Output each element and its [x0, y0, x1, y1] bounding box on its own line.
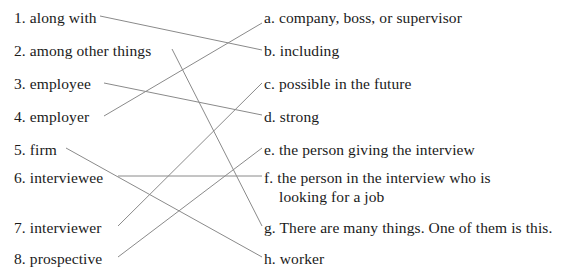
right-item-letter: d. — [264, 108, 276, 125]
right-item-text: worker — [276, 250, 324, 267]
right-column: a. company, boss, or supervisorb. includ… — [264, 0, 574, 277]
left-item[interactable]: 3. employee — [14, 74, 91, 93]
left-item-text: along with — [26, 9, 97, 26]
right-item[interactable]: c. possible in the future — [264, 74, 412, 93]
right-item[interactable]: d. strong — [264, 107, 319, 126]
right-item[interactable]: f. the person in the interview who isloo… — [264, 168, 491, 206]
right-item-letter: c. — [264, 75, 275, 92]
left-item-number: 1. — [14, 9, 26, 26]
left-item[interactable]: 7. interviewer — [14, 218, 101, 237]
left-item[interactable]: 5. firm — [14, 140, 57, 159]
right-item-text-continued: looking for a job — [264, 187, 491, 206]
right-item-text: the person giving the interview — [275, 141, 475, 158]
left-item-text: firm — [26, 141, 57, 158]
right-item-letter: e. — [264, 141, 275, 158]
left-item-text: employee — [26, 75, 91, 92]
right-item-text: including — [276, 42, 339, 59]
right-item-text: the person in the interview who is — [273, 169, 490, 186]
left-item[interactable]: 4. employer — [14, 107, 89, 126]
left-item-text: interviewer — [26, 219, 102, 236]
right-item-text: possible in the future — [275, 75, 412, 92]
left-item[interactable]: 2. among other things — [14, 41, 151, 60]
right-item-letter: b. — [264, 42, 276, 59]
left-item[interactable]: 1. along with — [14, 8, 97, 27]
left-item-number: 8. — [14, 250, 26, 267]
right-item-text: strong — [276, 108, 319, 125]
left-item-number: 6. — [14, 169, 26, 186]
right-item[interactable]: h. worker — [264, 249, 324, 268]
left-item-number: 5. — [14, 141, 26, 158]
left-item-text: interviewee — [26, 169, 103, 186]
right-item[interactable]: e. the person giving the interview — [264, 140, 475, 159]
right-item[interactable]: g. There are many things. One of them is… — [264, 218, 552, 237]
right-item-letter: a. — [264, 9, 275, 26]
right-item-letter: f. — [264, 169, 273, 186]
left-item-text: prospective — [26, 250, 103, 267]
right-item-letter: h. — [264, 250, 276, 267]
left-item-number: 4. — [14, 108, 26, 125]
left-item[interactable]: 8. prospective — [14, 249, 102, 268]
left-item[interactable]: 6. interviewee — [14, 168, 103, 187]
left-item-text: among other things — [26, 42, 151, 59]
right-item[interactable]: a. company, boss, or supervisor — [264, 8, 462, 27]
right-item-letter: g. — [264, 219, 276, 236]
right-item[interactable]: b. including — [264, 41, 339, 60]
left-item-text: employer — [26, 108, 89, 125]
left-item-number: 7. — [14, 219, 26, 236]
left-item-number: 2. — [14, 42, 26, 59]
right-item-text: There are many things. One of them is th… — [276, 219, 553, 236]
left-column: 1. along with2. among other things3. emp… — [14, 0, 214, 277]
left-item-number: 3. — [14, 75, 26, 92]
matching-exercise: 1. along with2. among other things3. emp… — [0, 0, 584, 277]
right-item-text: company, boss, or supervisor — [275, 9, 462, 26]
